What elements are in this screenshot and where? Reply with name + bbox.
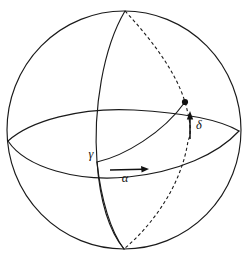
celestial-object-dot (182, 99, 188, 105)
alpha-arrow-shaft (110, 169, 143, 170)
celestial-sphere-figure: γ α δ (0, 0, 250, 257)
sphere-diagram-canvas: γ α δ (0, 0, 250, 257)
label-alpha-right-ascension: α (122, 171, 129, 185)
figure-background (0, 0, 250, 257)
label-delta-declination: δ (196, 118, 202, 132)
